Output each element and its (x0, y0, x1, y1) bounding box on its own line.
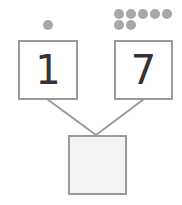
whole-number (70, 137, 125, 193)
counter-dot (126, 9, 136, 19)
number-bond-diagram: 1 7 (0, 0, 182, 205)
counter-dot (114, 9, 124, 19)
left-connector-line (47, 99, 96, 135)
whole-answer-box[interactable] (68, 135, 127, 195)
counter-dot (138, 9, 148, 19)
counter-dot (126, 20, 136, 30)
counter-dot (114, 20, 124, 30)
counter-dot (43, 20, 53, 30)
counter-dot (150, 9, 160, 19)
part-left-number: 1 (20, 42, 76, 98)
right-connector-line (96, 99, 144, 135)
part-right-number: 7 (116, 42, 171, 98)
part-box-left: 1 (18, 40, 78, 100)
part-box-right: 7 (114, 40, 173, 100)
counter-dot (162, 9, 172, 19)
